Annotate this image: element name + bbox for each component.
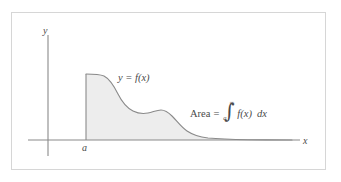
- y-axis-label: y: [43, 26, 47, 36]
- figure-root: y x a y = f(x) Area = ∫ ∞ a f(x) dx: [0, 0, 341, 182]
- area-formula: Area = ∫ ∞ a f(x) dx: [190, 104, 267, 124]
- integrand-expression: f(x): [237, 109, 252, 120]
- integral-operator: ∫ ∞ a: [222, 104, 235, 124]
- integral-upper-limit: ∞: [229, 100, 234, 107]
- lower-limit-tick-label: a: [82, 143, 87, 153]
- equals-sign: =: [213, 109, 219, 120]
- differential-dx: dx: [257, 109, 267, 120]
- area-word: Area: [190, 109, 210, 120]
- integral-lower-limit: a: [223, 115, 226, 122]
- curve-equation-label: y = f(x): [118, 73, 150, 84]
- x-axis-label: x: [303, 136, 307, 146]
- plot-canvas: [0, 0, 341, 182]
